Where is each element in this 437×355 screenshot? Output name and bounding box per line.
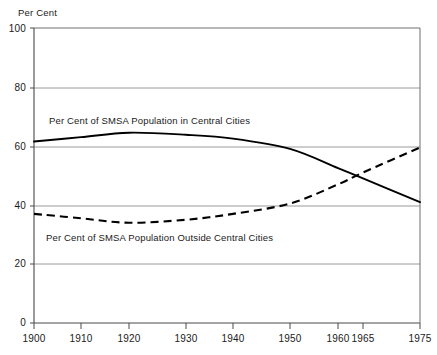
y-tick-label-80: 80: [0, 82, 26, 93]
y-tick-label-0: 0: [0, 317, 26, 328]
y-tick-label-40: 40: [0, 200, 26, 211]
y-tick-label-20: 20: [0, 258, 26, 269]
x-tick-marks: [34, 323, 420, 329]
series-line-central-cities: [34, 133, 420, 202]
y-tick-label-100: 100: [0, 23, 26, 34]
chart-container: Per Cent: [0, 0, 437, 355]
x-tick-label-1940: 1940: [215, 333, 251, 344]
x-tick-label-1920: 1920: [111, 333, 147, 344]
x-tick-label-1900: 1900: [16, 333, 52, 344]
y-tick-marks: [30, 28, 34, 323]
series-line-outside-central-cities: [34, 147, 420, 222]
x-tick-label-1930: 1930: [168, 333, 204, 344]
x-tick-label-1965: 1965: [345, 333, 381, 344]
y-tick-label-60: 60: [0, 141, 26, 152]
x-tick-label-1950: 1950: [272, 333, 308, 344]
series-annotation-central-cities: Per Cent of SMSA Population in Central C…: [49, 115, 250, 126]
x-tick-label-1975: 1975: [402, 333, 437, 344]
x-tick-label-1910: 1910: [63, 333, 99, 344]
plot-frame: [34, 28, 420, 323]
series-annotation-outside-central-cities: Per Cent of SMSA Population Outside Cent…: [46, 232, 273, 243]
chart-svg: [0, 0, 437, 355]
